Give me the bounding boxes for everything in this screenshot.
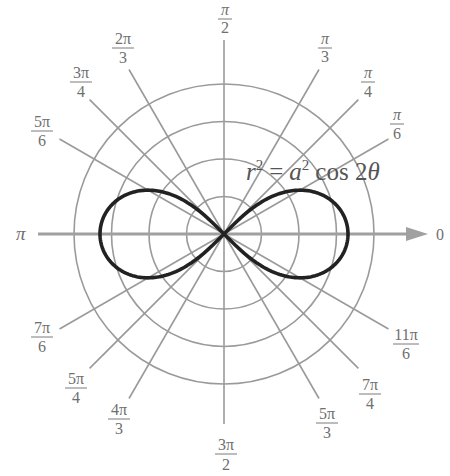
eq-theta: θ bbox=[367, 158, 379, 185]
svg-text:π: π bbox=[221, 1, 230, 18]
svg-text:3π: 3π bbox=[73, 64, 89, 81]
svg-text:5π: 5π bbox=[319, 405, 335, 422]
svg-text:π: π bbox=[364, 64, 373, 81]
label-5pi-3: 5π 3 bbox=[316, 405, 338, 441]
eq-r: r bbox=[246, 158, 256, 185]
svg-text:3: 3 bbox=[119, 49, 127, 66]
eq-a-exp: 2 bbox=[302, 157, 310, 173]
svg-text:2: 2 bbox=[221, 19, 229, 36]
polar-figure: r2=a2cos 2θ 0 π π 2 π 3 π 4 π 6 2π 3 3π … bbox=[0, 0, 450, 476]
label-pi-4: π 4 bbox=[361, 64, 375, 100]
label-11pi-6: 11π 6 bbox=[393, 326, 419, 362]
svg-text:π: π bbox=[321, 30, 330, 47]
svg-text:6: 6 bbox=[393, 125, 401, 142]
svg-text:2: 2 bbox=[222, 456, 230, 473]
label-pi: π bbox=[16, 223, 26, 244]
label-0: 0 bbox=[436, 226, 444, 243]
eq-equals: = bbox=[269, 158, 283, 185]
label-pi-6: π 6 bbox=[390, 106, 404, 142]
label-3pi-2: 3π 2 bbox=[215, 436, 237, 473]
label-7pi-4: 7π 4 bbox=[359, 376, 381, 412]
label-4pi-3: 4π 3 bbox=[108, 401, 130, 437]
svg-text:5π: 5π bbox=[68, 370, 84, 387]
svg-text:4: 4 bbox=[77, 83, 85, 100]
svg-text:4: 4 bbox=[366, 395, 374, 412]
svg-text:4: 4 bbox=[72, 389, 80, 406]
svg-text:6: 6 bbox=[38, 132, 46, 149]
label-pi-2: π 2 bbox=[218, 1, 232, 36]
svg-text:π: π bbox=[393, 106, 402, 123]
eq-cos2: cos 2 bbox=[315, 158, 367, 185]
svg-text:6: 6 bbox=[402, 345, 410, 362]
svg-text:4: 4 bbox=[364, 83, 372, 100]
svg-text:3: 3 bbox=[321, 48, 329, 65]
arrow-head-icon bbox=[406, 227, 428, 241]
svg-text:2π: 2π bbox=[115, 30, 131, 47]
eq-a: a bbox=[289, 158, 302, 185]
svg-text:7π: 7π bbox=[34, 319, 50, 336]
svg-text:3π: 3π bbox=[218, 436, 234, 453]
eq-r-exp: 2 bbox=[256, 157, 264, 173]
label-3pi-4: 3π 4 bbox=[70, 64, 92, 100]
label-2pi-3: 2π 3 bbox=[112, 30, 134, 66]
label-5pi-4: 5π 4 bbox=[65, 370, 87, 406]
svg-text:6: 6 bbox=[38, 338, 46, 355]
svg-text:11π: 11π bbox=[394, 326, 417, 343]
label-5pi-6: 5π 6 bbox=[31, 113, 53, 149]
label-pi-3: π 3 bbox=[318, 30, 332, 65]
svg-text:5π: 5π bbox=[34, 113, 50, 130]
svg-text:3: 3 bbox=[323, 424, 331, 441]
svg-text:4π: 4π bbox=[111, 401, 127, 418]
svg-text:7π: 7π bbox=[362, 376, 378, 393]
svg-text:3: 3 bbox=[115, 420, 123, 437]
label-7pi-6: 7π 6 bbox=[31, 319, 53, 355]
